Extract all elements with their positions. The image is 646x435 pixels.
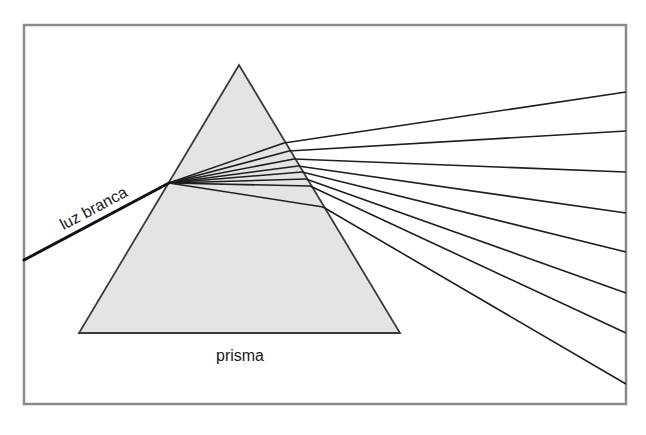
- refracted-ray: [294, 159, 626, 172]
- refracted-ray: [302, 172, 626, 252]
- prism-label: prisma: [216, 347, 264, 364]
- prism-dispersion-diagram: luz branca prisma: [0, 0, 646, 435]
- refracted-ray: [298, 166, 626, 213]
- refracted-ray: [284, 92, 626, 143]
